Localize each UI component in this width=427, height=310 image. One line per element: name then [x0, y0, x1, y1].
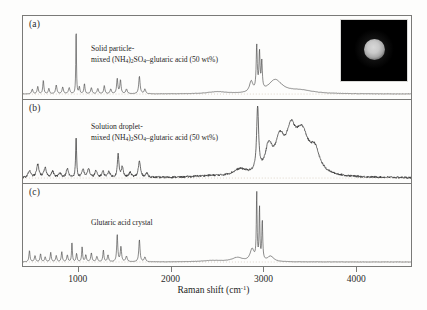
panel-b-caption-line2: mixed (NH4)2SO4–glutaric acid (50 wt%): [91, 133, 218, 145]
x-axis: 1000200030004000: [22, 267, 412, 268]
x-tick-1000: [78, 267, 79, 272]
panel-a: (a) Solid particle- mixed (NH4)2SO4–glut…: [23, 16, 411, 100]
inset-micrograph: [340, 19, 408, 82]
particle-disc: [364, 39, 385, 60]
x-tick-3000: [263, 267, 264, 272]
panel-b-tag: (b): [29, 103, 41, 113]
x-tick-label-4000: 4000: [347, 274, 366, 284]
plot-frame: (a) Solid particle- mixed (NH4)2SO4–glut…: [22, 15, 412, 267]
panel-c-caption: Glutaric acid crystal: [91, 218, 153, 229]
panel-a-caption-line2: mixed (NH4)2SO4–glutaric acid (50 wt%): [91, 55, 218, 67]
panel-b: (b) Solution droplet- mixed (NH4)2SO4–gl…: [23, 100, 411, 184]
panel-c: (c) Glutaric acid crystal: [23, 184, 411, 267]
panel-a-caption-line1: Solid particle-: [91, 44, 218, 55]
x-tick-2000: [171, 267, 172, 272]
panel-a-caption: Solid particle- mixed (NH4)2SO4–glutaric…: [91, 44, 218, 66]
x-tick-4000: [356, 267, 357, 272]
panel-c-caption-line1: Glutaric acid crystal: [91, 218, 153, 229]
x-axis-label: Raman shift (cm-1): [0, 284, 427, 295]
x-tick-label-1000: 1000: [68, 274, 87, 284]
panel-c-tag: (c): [29, 187, 40, 197]
spectrum-line-c: [23, 191, 411, 262]
panel-b-caption-line1: Solution droplet-: [91, 122, 218, 133]
x-tick-label-3000: 3000: [254, 274, 273, 284]
spectrum-trace-c: [23, 184, 411, 267]
x-tick-label-2000: 2000: [161, 274, 180, 284]
panel-a-tag: (a): [29, 19, 40, 29]
panel-b-caption: Solution droplet- mixed (NH4)2SO4–glutar…: [91, 122, 218, 144]
raman-spectra-figure: (a) Solid particle- mixed (NH4)2SO4–glut…: [0, 0, 427, 310]
